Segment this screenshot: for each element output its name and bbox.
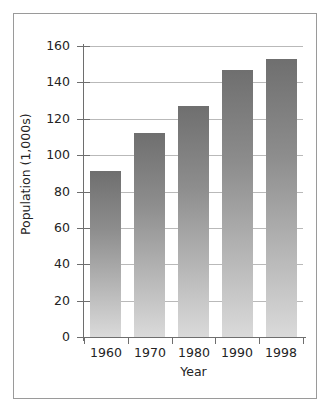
y-axis-tick-label: 140	[26, 76, 70, 89]
y-axis-tick-label: 160	[26, 40, 70, 53]
x-axis-label: Year	[84, 366, 303, 379]
y-axis-label: Population (1,000s)	[20, 84, 33, 264]
x-axis-tick-label: 1998	[255, 347, 307, 360]
bar	[222, 70, 253, 337]
x-axis-tick	[259, 337, 260, 344]
x-axis-tick	[303, 337, 304, 344]
bar	[266, 59, 297, 337]
x-axis-tick	[84, 337, 85, 344]
chart-figure: 020406080100120140160 196019701980199019…	[0, 0, 332, 414]
bar	[134, 133, 165, 337]
y-axis-tick-label: 40	[26, 258, 70, 271]
y-axis-tick-label: 20	[26, 295, 70, 308]
bar	[178, 106, 209, 337]
x-axis-tick	[215, 337, 216, 344]
x-axis-line	[79, 337, 306, 338]
bar	[90, 171, 121, 337]
plot-area	[84, 46, 303, 337]
x-axis-tick	[128, 337, 129, 344]
x-axis-tick	[172, 337, 173, 344]
y-axis-tick-label: 0	[26, 331, 70, 344]
